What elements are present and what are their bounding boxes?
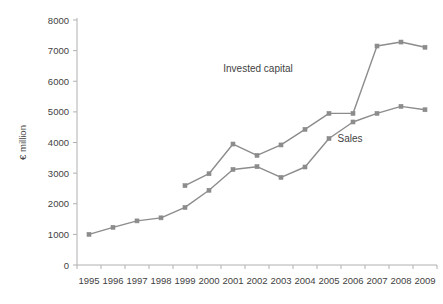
series-marker-invested-capital <box>255 153 259 157</box>
y-axis-tick-label: 8000 <box>48 15 69 26</box>
series-marker-invested-capital <box>231 142 235 146</box>
series-marker-sales <box>327 137 331 141</box>
series-marker-invested-capital <box>327 111 331 115</box>
series-marker-sales <box>135 219 139 223</box>
series-line-sales <box>89 106 425 234</box>
y-axis-tick-label: 0 <box>64 260 69 271</box>
series-marker-sales <box>207 188 211 192</box>
series-marker-sales <box>399 104 403 108</box>
x-axis-tick-label: 1999 <box>174 275 195 286</box>
x-axis-tick-label: 2007 <box>366 275 387 286</box>
x-axis-tick-label: 1995 <box>78 275 99 286</box>
series-marker-sales <box>423 108 427 112</box>
series-label-sales: Sales <box>337 133 362 144</box>
series-marker-sales <box>183 205 187 209</box>
x-axis-tick-label: 2008 <box>390 275 411 286</box>
y-axis-tick-label: 4000 <box>48 137 69 148</box>
x-axis-tick-label: 2000 <box>198 275 219 286</box>
series-marker-invested-capital <box>183 184 187 188</box>
series-marker-sales <box>231 167 235 171</box>
x-axis-tick-label: 2004 <box>294 275 315 286</box>
series-marker-sales <box>279 175 283 179</box>
x-axis-tick-label: 1997 <box>126 275 147 286</box>
y-axis-title: € million <box>17 125 28 160</box>
x-axis-tick-label: 2006 <box>342 275 363 286</box>
series-marker-invested-capital <box>279 143 283 147</box>
series-marker-sales <box>351 120 355 124</box>
series-marker-sales <box>255 165 259 169</box>
y-axis-tick-label: 2000 <box>48 198 69 209</box>
series-marker-invested-capital <box>423 45 427 49</box>
x-axis-tick-label: 2002 <box>246 275 267 286</box>
x-axis-tick-label: 1996 <box>102 275 123 286</box>
x-axis-tick-label: 2003 <box>270 275 291 286</box>
series-marker-invested-capital <box>207 172 211 176</box>
x-axis-tick-label: 2001 <box>222 275 243 286</box>
series-marker-sales <box>303 165 307 169</box>
x-axis-tick-label: 2005 <box>318 275 339 286</box>
series-marker-invested-capital <box>351 111 355 115</box>
series-marker-invested-capital <box>303 127 307 131</box>
x-axis-tick-label: 1998 <box>150 275 171 286</box>
x-axis-tick-label: 2009 <box>414 275 435 286</box>
series-line-invested-capital <box>185 42 425 186</box>
y-axis-tick-label: 1000 <box>48 229 69 240</box>
y-axis-tick-label: 6000 <box>48 76 69 87</box>
series-marker-sales <box>87 232 91 236</box>
series-marker-invested-capital <box>399 40 403 44</box>
chart-canvas: 0100020003000400050006000700080001995199… <box>0 0 443 304</box>
y-axis-tick-label: 5000 <box>48 106 69 117</box>
y-axis-tick-label: 7000 <box>48 45 69 56</box>
y-axis-tick-label: 3000 <box>48 168 69 179</box>
series-marker-sales <box>159 216 163 220</box>
series-marker-invested-capital <box>375 44 379 48</box>
series-marker-sales <box>111 225 115 229</box>
series-label-invested-capital: Invested capital <box>223 63 293 74</box>
series-marker-sales <box>375 111 379 115</box>
line-chart-figure: 0100020003000400050006000700080001995199… <box>0 0 443 304</box>
